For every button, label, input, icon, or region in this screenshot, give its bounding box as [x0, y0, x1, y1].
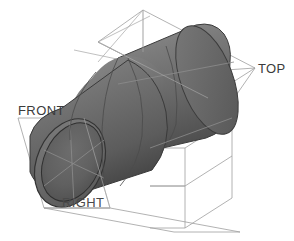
cad-viewport[interactable]: TOP FRONT RIGHT	[0, 0, 294, 241]
datum-plane-label-right[interactable]: RIGHT	[62, 195, 104, 210]
cad-scene	[0, 0, 294, 241]
datum-plane-label-top[interactable]: TOP	[258, 61, 286, 76]
datum-plane-label-front[interactable]: FRONT	[18, 103, 65, 118]
